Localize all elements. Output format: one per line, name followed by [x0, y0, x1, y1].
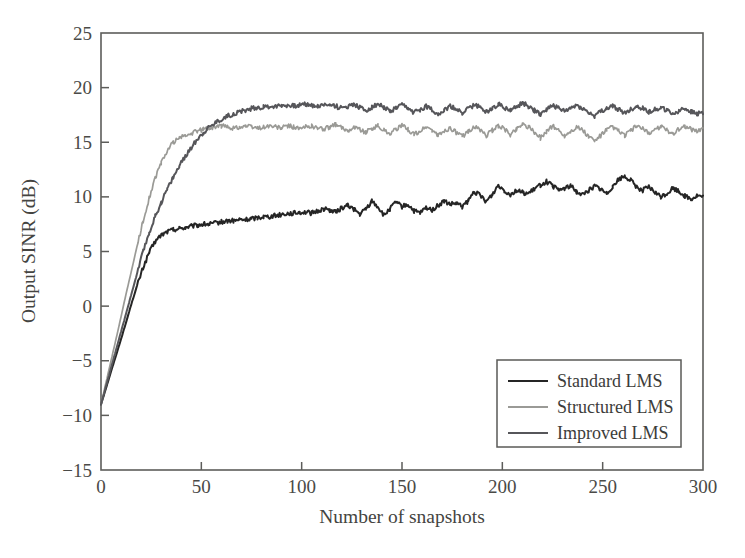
- x-tick-label: 250: [588, 476, 617, 497]
- legend-label-standard-lms: Standard LMS: [557, 371, 663, 391]
- y-tick-label: 0: [83, 296, 93, 317]
- x-tick-label: 300: [689, 476, 718, 497]
- legend[interactable]: Standard LMSStructured LMSImproved LMS: [497, 360, 681, 447]
- y-tick-label: 20: [73, 77, 92, 98]
- x-tick-label: 150: [388, 476, 417, 497]
- y-tick-label: 5: [83, 241, 93, 262]
- chart-background: [0, 0, 745, 558]
- sinr-convergence-chart: −15−10−50510152025 050100150200250300 Nu…: [0, 0, 745, 558]
- y-axis-title: Output SINR (dB): [18, 179, 40, 323]
- legend-items-group: Standard LMSStructured LMSImproved LMS: [508, 371, 674, 443]
- x-tick-label: 50: [192, 476, 211, 497]
- y-tick-label: 25: [73, 23, 92, 44]
- legend-label-structured-lms: Structured LMS: [557, 397, 674, 417]
- figure-container: −15−10−50510152025 050100150200250300 Nu…: [0, 0, 745, 558]
- legend-label-improved-lms: Improved LMS: [557, 423, 669, 443]
- x-tick-label: 0: [96, 476, 106, 497]
- y-tick-label: −15: [62, 460, 92, 481]
- y-tick-label: −5: [72, 350, 92, 371]
- y-tick-label: 10: [73, 186, 92, 207]
- x-tick-label: 200: [488, 476, 517, 497]
- x-axis-title: Number of snapshots: [319, 506, 485, 527]
- y-tick-label: −10: [62, 405, 92, 426]
- y-tick-label: 15: [73, 132, 92, 153]
- x-tick-label: 100: [287, 476, 316, 497]
